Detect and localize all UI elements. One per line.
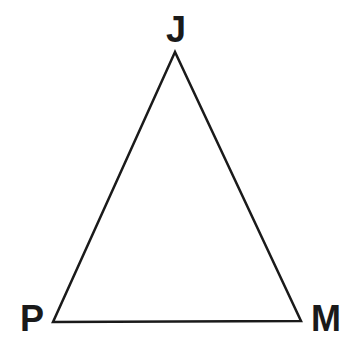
vertex-label-j: J — [166, 9, 186, 50]
vertex-label-m: M — [311, 298, 341, 339]
vertex-label-p: P — [20, 298, 44, 339]
triangle-diagram: J P M — [0, 0, 352, 342]
triangle-jpm — [53, 52, 301, 322]
